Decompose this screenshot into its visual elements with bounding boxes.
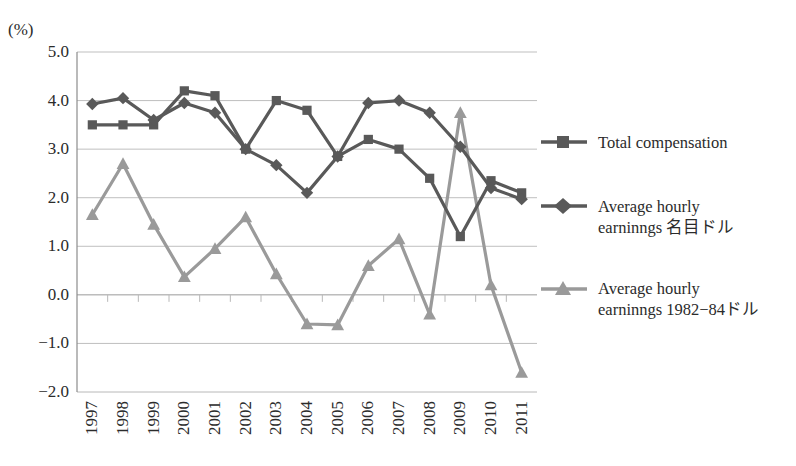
y-axis-tick-label: 2.0 — [48, 188, 69, 208]
legend-marker-diamond-icon — [540, 196, 588, 216]
x-axis-tick-label: 2005 — [328, 401, 348, 435]
y-axis-tick-label: 1.0 — [48, 236, 69, 256]
x-axis-tick-label: 2010 — [481, 401, 501, 435]
legend-item: Average hourly earninngs 名目ドル — [540, 196, 790, 278]
chart-container: (%) 5.04.03.02.01.00.0−1.0−2.0 199719981… — [0, 0, 796, 466]
x-axis-tick-label: 2008 — [420, 401, 440, 435]
x-axis-tick-label: 2007 — [389, 401, 409, 435]
x-axis-tick-label: 2001 — [205, 401, 225, 435]
legend-item: Total compensation — [540, 132, 790, 196]
y-axis-tick-label: 4.0 — [48, 91, 69, 111]
x-axis-tick-label: 1997 — [82, 401, 102, 435]
legend-label-avg-hourly-nominal: Average hourly earninngs 名目ドル — [598, 196, 790, 238]
x-axis-tick-label: 2011 — [512, 401, 532, 434]
clipped-title — [126, 0, 546, 3]
plot-svg — [77, 52, 537, 392]
x-axis-tick-label: 2006 — [358, 401, 378, 435]
x-axis-tick-label: 1998 — [113, 401, 133, 435]
x-axis-tick-label: 1999 — [144, 401, 164, 435]
y-axis-tick-label: −1.0 — [38, 333, 69, 353]
x-axis-tick-label: 2000 — [174, 401, 194, 435]
y-axis-tick-label: 0.0 — [48, 285, 69, 305]
plot-area: 5.04.03.02.01.00.0−1.0−2.0 1997199819992… — [77, 52, 537, 392]
y-axis-tick-label: 5.0 — [48, 42, 69, 62]
legend-label-avg-hourly-real: Average hourly earninngs 1982−84ドル — [598, 278, 790, 320]
legend-label-total-compensation: Total compensation — [598, 132, 790, 153]
y-axis-unit-label: (%) — [8, 20, 33, 40]
x-axis-tick-label: 2009 — [450, 401, 470, 435]
legend-marker-square-icon — [540, 132, 588, 152]
legend: Total compensation Average hourly earnin… — [540, 132, 790, 328]
y-axis-tick-label: −2.0 — [38, 382, 69, 402]
y-axis-tick-label: 3.0 — [48, 139, 69, 159]
legend-item: Average hourly earninngs 1982−84ドル — [540, 278, 790, 328]
legend-marker-triangle-icon — [540, 278, 588, 298]
x-axis-tick-label: 2003 — [266, 401, 286, 435]
x-axis-tick-label: 2002 — [236, 401, 256, 435]
x-axis-tick-label: 2004 — [297, 401, 317, 435]
